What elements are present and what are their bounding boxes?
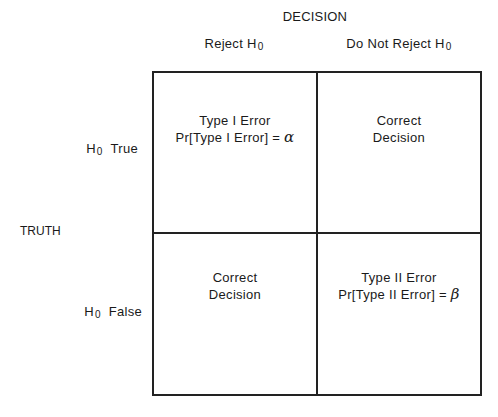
cell-false-not-reject-probability: Pr[Type II Error] = β <box>338 286 460 303</box>
column-header-do-not-reject-text: Do Not Reject H <box>346 36 444 51</box>
cell-true-not-reject: Correct Decision <box>318 73 480 234</box>
cell-true-not-reject-line1: Correct <box>373 112 425 129</box>
row-label-h0-false-prefix: H <box>84 304 94 319</box>
column-header-reject: Reject H0 <box>152 36 316 51</box>
cell-false-reject-line2: Decision <box>209 286 261 303</box>
cell-false-not-reject-probability-text: Pr[Type II Error] = <box>338 287 451 302</box>
decision-axis-title: DECISION <box>0 9 498 24</box>
column-header-do-not-reject-subscript: 0 <box>446 41 452 52</box>
cell-false-not-reject-title: Type II Error <box>338 269 460 286</box>
cell-false-reject-line1: Correct <box>209 269 261 286</box>
row-label-h0-true-prefix: H <box>86 141 96 156</box>
row-label-h0-false: H0 False <box>60 304 142 319</box>
beta-symbol: β <box>451 285 460 303</box>
cell-false-not-reject: Type II Error Pr[Type II Error] = β <box>318 234 480 394</box>
row-label-h0-true-subscript: 0 <box>97 146 103 157</box>
column-header-do-not-reject: Do Not Reject H0 <box>316 36 482 51</box>
alpha-symbol: α <box>284 128 294 146</box>
row-label-h0-true: H0 True <box>60 141 138 156</box>
cell-true-reject-probability-text: Pr[Type I Error] = <box>175 130 284 145</box>
cell-true-reject-probability: Pr[Type I Error] = α <box>175 129 294 146</box>
cell-true-not-reject-line2: Decision <box>373 129 425 146</box>
row-label-h0-false-subscript: 0 <box>95 309 101 320</box>
column-header-reject-subscript: 0 <box>258 41 264 52</box>
column-header-reject-text: Reject H <box>204 36 256 51</box>
cell-true-reject: Type I Error Pr[Type I Error] = α <box>154 73 318 234</box>
row-label-h0-true-suffix: True <box>111 141 138 156</box>
decision-matrix: Type I Error Pr[Type I Error] = α Correc… <box>152 71 482 396</box>
row-label-h0-false-suffix: False <box>109 304 142 319</box>
cell-false-reject: Correct Decision <box>154 234 318 394</box>
cell-true-reject-title: Type I Error <box>175 112 294 129</box>
truth-axis-title: TRUTH <box>20 224 61 238</box>
